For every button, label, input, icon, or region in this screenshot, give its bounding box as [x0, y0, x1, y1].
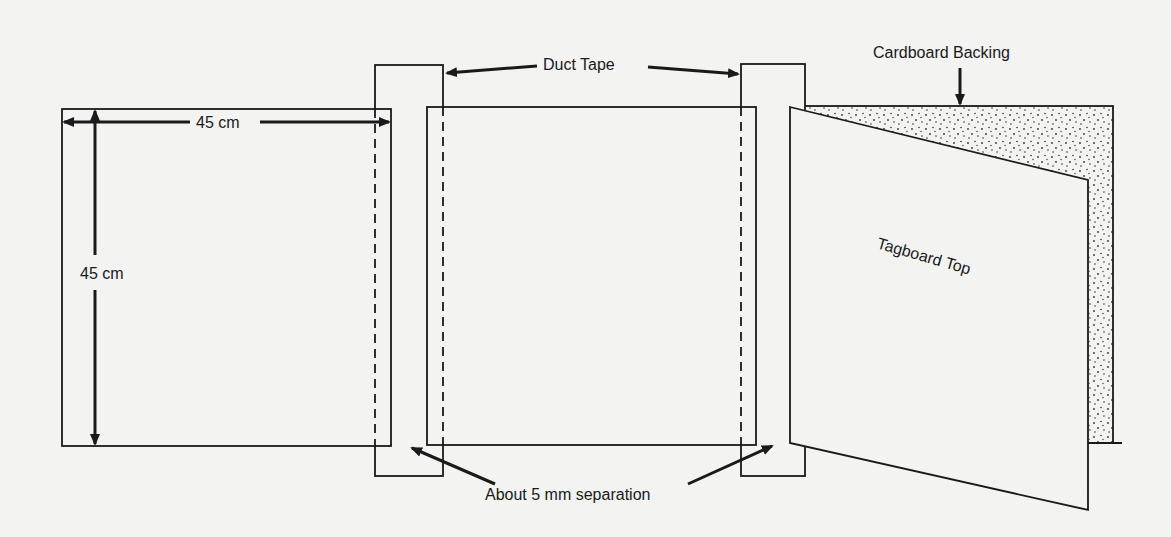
height-dimension-label: 45 cm — [80, 265, 124, 282]
duct-tape-label: Duct Tape — [543, 56, 615, 73]
duct-tape-arrow-right — [648, 67, 738, 74]
middle-square — [427, 107, 756, 445]
duct-tape-arrow-left — [447, 66, 537, 73]
separation-label: About 5 mm separation — [485, 486, 650, 503]
diagram-canvas: 45 cm 45 cm Duct Tape Cardboard Backing … — [0, 0, 1171, 537]
cardboard-backing-label: Cardboard Backing — [873, 44, 1010, 61]
width-dimension-label: 45 cm — [196, 114, 240, 131]
